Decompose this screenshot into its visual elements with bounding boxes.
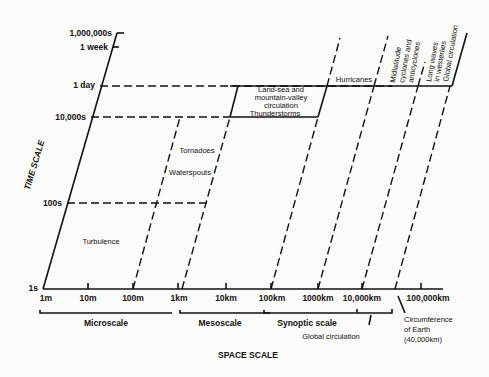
boundary-circumference: [395, 86, 450, 289]
ytick-100s: 100s: [43, 198, 62, 208]
ytick-1000000s: 1,000,000s: [69, 28, 112, 38]
ytick-1day: 1 day: [73, 80, 95, 90]
scale-meso: Mesoscale: [199, 318, 242, 328]
boundary-100km: [271, 117, 318, 289]
circumference-line1: Circumference: [404, 315, 453, 324]
ytick-10000s: 10,000s: [55, 112, 86, 122]
label-turbulence: Turbulence: [82, 237, 119, 246]
xtick-1m: 1m: [40, 293, 53, 303]
xtick-100km: 100km: [259, 293, 286, 303]
x-axis-ticks: [88, 283, 421, 289]
time-axis: [43, 33, 117, 289]
boundary-1km-solid: [230, 86, 238, 117]
boundary-1000km: [318, 86, 374, 289]
boundary-10000km-top: [418, 62, 425, 86]
scale-micro: Microscale: [84, 318, 128, 328]
scale-synoptic: Synoptic scale: [277, 318, 337, 328]
circumference-line2: of Earth: [404, 325, 430, 334]
label-thunderstorms: Thunderstorms: [250, 109, 301, 118]
xtick-100m: 100m: [122, 293, 144, 303]
boundary-10000km: [362, 86, 418, 289]
xtick-10000km: 10,000km: [343, 293, 382, 303]
y-axis-title: TIME SCALE: [22, 139, 47, 191]
xtick-100000km: 100,000km: [406, 293, 449, 303]
x-axis-title: SPACE SCALE: [218, 350, 278, 360]
scale-global: Global circulation: [302, 332, 360, 341]
scale-diagram: 1,000,000s 1 week 1 day 10,000s 100s 1s …: [0, 0, 489, 377]
circumference-line3: (40,000km): [404, 335, 442, 344]
boundary-100km-solid: [318, 86, 327, 117]
boundary-1000km-top: [374, 36, 388, 86]
xtick-10m: 10m: [79, 293, 96, 303]
ytick-1week: 1 week: [80, 42, 108, 52]
label-hurricanes: Hurricanes: [336, 75, 373, 84]
label-tornadoes: Tornadoes: [179, 146, 214, 155]
xtick-1000km: 1000km: [302, 293, 334, 303]
xtick-1km: 1km: [170, 293, 187, 303]
ytick-1s: 1s: [29, 283, 39, 293]
label-waterspouts: Waterspouts: [169, 168, 211, 177]
xtick-10km: 10km: [215, 293, 237, 303]
